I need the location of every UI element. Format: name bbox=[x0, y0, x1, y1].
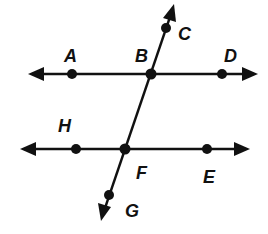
arrowhead-left-icon bbox=[28, 67, 44, 81]
transversal-cg bbox=[98, 4, 176, 221]
label-c: C bbox=[178, 24, 192, 44]
line-he bbox=[20, 142, 250, 156]
label-b: B bbox=[135, 46, 148, 66]
arrowhead-right-icon bbox=[234, 142, 250, 156]
arrowhead-down-icon bbox=[98, 203, 111, 221]
point-h bbox=[71, 144, 81, 154]
label-h: H bbox=[58, 116, 72, 136]
point-a bbox=[67, 69, 77, 79]
label-d: D bbox=[224, 46, 237, 66]
point-d bbox=[217, 69, 227, 79]
label-e: E bbox=[203, 167, 216, 187]
point-b bbox=[146, 69, 157, 80]
arrowhead-left-icon bbox=[20, 142, 36, 156]
geometry-diagram: A B C D H F E G bbox=[0, 0, 268, 234]
point-c bbox=[161, 23, 171, 33]
point-e bbox=[202, 144, 212, 154]
point-f bbox=[120, 144, 131, 155]
arrowhead-up-icon bbox=[163, 4, 176, 22]
label-f: F bbox=[136, 163, 148, 183]
label-a: A bbox=[63, 46, 77, 66]
label-g: G bbox=[125, 201, 139, 221]
arrowhead-right-icon bbox=[242, 67, 258, 81]
point-g bbox=[104, 190, 114, 200]
